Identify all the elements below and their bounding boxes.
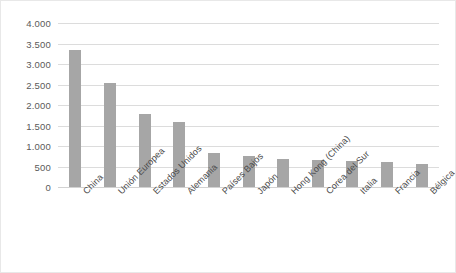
x-axis-category-label: China <box>81 189 88 196</box>
x-axis-category-label: Corea del Sur <box>324 189 331 196</box>
bar-chart-figure: 05001.0001.5002.0002.5003.0003.5004.000 … <box>0 0 456 273</box>
y-axis-tick-label: 4.000 <box>1 18 51 29</box>
y-axis-tick-label: 0 <box>1 182 51 193</box>
y-axis-tick-label: 1.000 <box>1 141 51 152</box>
y-axis-tick-label: 2.500 <box>1 79 51 90</box>
bar <box>381 162 393 187</box>
x-axis-category-label: Bélgica <box>428 189 435 196</box>
bar <box>277 159 289 187</box>
x-axis-category-label: Unión Europea <box>116 189 123 196</box>
x-axis-category-labels: ChinaUnión EuropeaEstados UnidosAlemania… <box>58 189 439 269</box>
x-axis-category-label: Italia <box>358 189 365 196</box>
x-axis-category-label: Japón <box>255 189 262 196</box>
x-axis-category-label: Francia <box>393 189 400 196</box>
x-axis-category-label: Estados Unidos <box>151 189 158 196</box>
y-axis-tick-label: 3.500 <box>1 38 51 49</box>
y-axis-tick-label: 2.000 <box>1 100 51 111</box>
bar <box>104 83 116 187</box>
bar <box>69 50 81 187</box>
y-axis-tick-labels: 05001.0001.5002.0002.5003.0003.5004.000 <box>1 23 51 187</box>
y-axis-tick-label: 3.000 <box>1 59 51 70</box>
x-axis-category-label: Países Bajos <box>220 189 227 196</box>
x-axis-category-label: Hong Kong (China) <box>289 189 296 196</box>
y-axis-tick-label: 1.500 <box>1 120 51 131</box>
x-axis-category-label: Alemania <box>185 189 192 196</box>
gridline <box>58 187 439 188</box>
y-axis-tick-label: 500 <box>1 161 51 172</box>
